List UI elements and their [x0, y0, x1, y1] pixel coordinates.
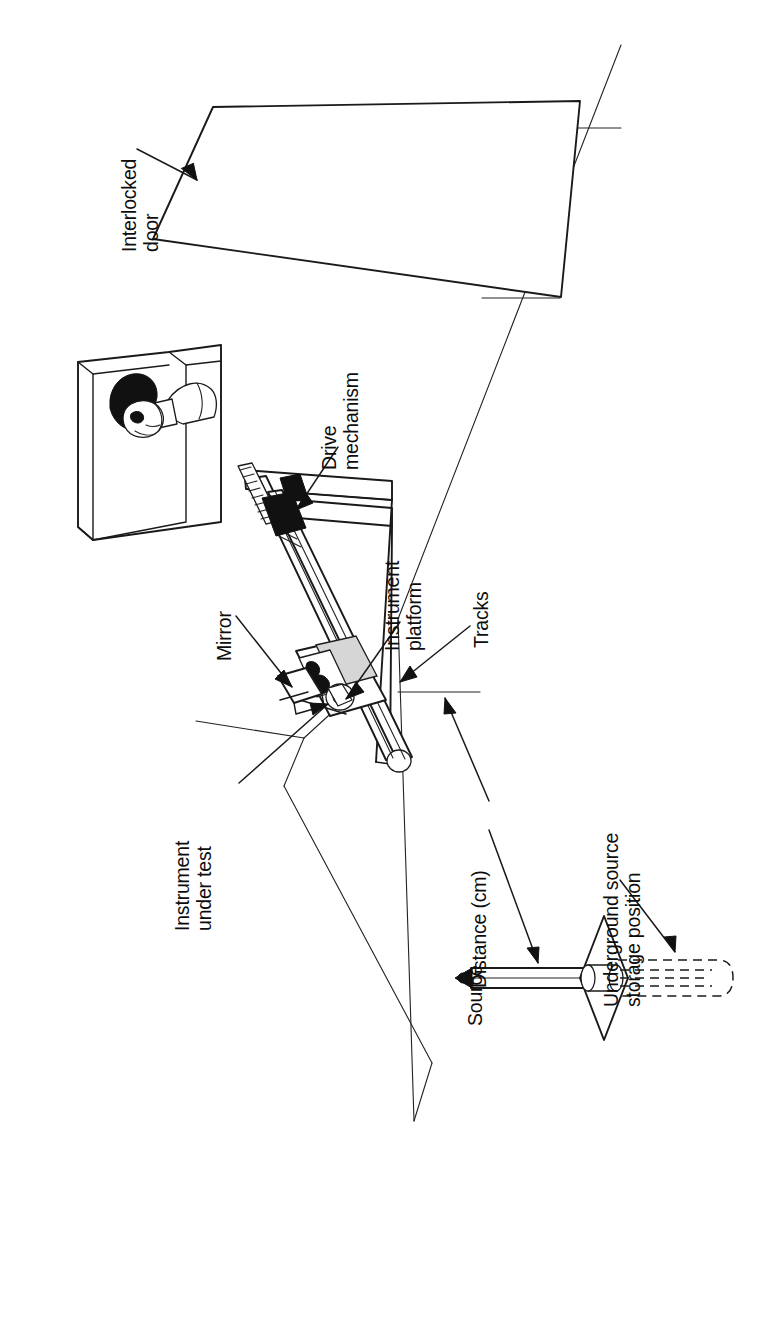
- arrowhead-tracks: [400, 666, 417, 682]
- arrowhead-storage: [664, 936, 676, 952]
- label-mirror: Mirror: [213, 611, 235, 661]
- observation-window: [78, 345, 221, 540]
- label-instrument-under-test: Instrument under test: [171, 841, 215, 931]
- door-panel[interactable]: [153, 101, 580, 297]
- label-instrument-platform: Instrument platform: [381, 561, 425, 651]
- diagram-root: Interlocked door Drive mechanism Instrum…: [0, 0, 764, 1321]
- calibration-range-illustration: [0, 0, 764, 1321]
- label-source: Source: [464, 965, 486, 1026]
- label-interlocked-door: Interlocked door: [118, 159, 162, 252]
- source-assembly: [455, 916, 733, 1040]
- label-drive-mechanism: Drive mechanism: [318, 372, 362, 470]
- arrowhead-distance-bottom: [527, 947, 539, 963]
- arrowhead-distance-top: [444, 698, 456, 714]
- label-tracks: Tracks: [470, 591, 492, 648]
- label-underground-storage: Underground source storage position: [600, 833, 644, 1007]
